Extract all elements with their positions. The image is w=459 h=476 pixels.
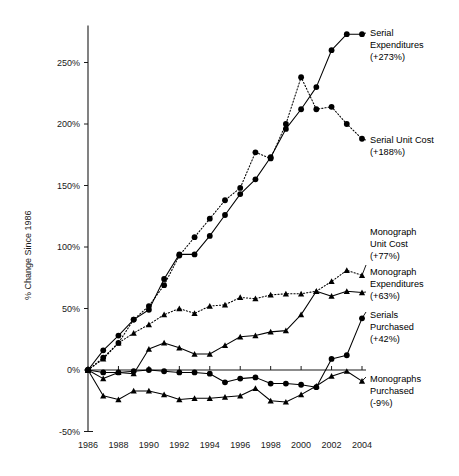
- x-tick-label: 1996: [230, 440, 250, 450]
- annotation-monographs-purchased-line2: Purchased: [370, 386, 414, 396]
- data-point-marker: [131, 317, 137, 323]
- data-point-marker: [344, 352, 350, 358]
- annotation-serial-expenditures-line3: (+273%): [370, 52, 405, 62]
- data-point-marker: [253, 149, 259, 155]
- data-point-marker: [146, 367, 152, 373]
- y-axis-title: % Change Since 1986: [23, 210, 33, 300]
- y-tick-label: 50%: [62, 304, 80, 314]
- data-point-marker: [161, 368, 167, 374]
- annotation-monograph-expenditures-line1: Monograph: [370, 267, 416, 277]
- x-tick-label: 2004: [352, 440, 372, 450]
- x-tick-label: 1994: [200, 440, 220, 450]
- annotation-monograph-unit-cost-line2: Unit Cost: [370, 239, 408, 249]
- chart-container: % Change Since 1986 -50%0%50%100%150%200…: [0, 0, 459, 476]
- annotation-monographs-purchased-line3: (-9%): [370, 398, 392, 408]
- data-point-marker: [283, 381, 289, 387]
- annotation-serial-expenditures-line2: Expenditures: [370, 40, 424, 50]
- x-tick-label: 1988: [108, 440, 128, 450]
- y-tick-label: 100%: [57, 242, 80, 252]
- data-point-marker: [344, 121, 350, 127]
- annotation-monograph-expenditures-line2: Expenditures: [370, 279, 424, 289]
- data-point-marker: [313, 84, 319, 90]
- x-tick-label: 1990: [139, 440, 159, 450]
- data-point-marker: [161, 282, 167, 288]
- annotation-serials-purchased-line3: (+42%): [370, 334, 400, 344]
- data-point-marker: [207, 233, 213, 239]
- data-point-marker: [192, 370, 198, 376]
- data-point-marker: [100, 370, 106, 376]
- data-point-marker: [192, 234, 198, 240]
- data-point-marker: [268, 381, 274, 387]
- data-point-marker: [192, 251, 198, 257]
- annotation-serials-purchased-line1: Serials: [370, 310, 398, 320]
- x-tick-label: 1998: [261, 440, 281, 450]
- data-point-marker: [176, 370, 182, 376]
- annotation-serial-unit-cost-line1: Serial Unit Cost: [370, 135, 434, 145]
- data-point-marker: [237, 191, 243, 197]
- data-point-marker: [146, 303, 152, 309]
- data-point-marker: [344, 31, 350, 37]
- x-tick-label: 2000: [291, 440, 311, 450]
- annotation-leader-line: [362, 292, 366, 293]
- data-point-marker: [253, 176, 259, 182]
- data-point-marker: [329, 356, 335, 362]
- y-tick-label: 250%: [57, 58, 80, 68]
- data-point-marker: [359, 31, 365, 37]
- y-tick-label: -50%: [59, 427, 80, 437]
- data-point-marker: [283, 121, 289, 127]
- data-point-marker: [222, 379, 228, 385]
- annotation-monograph-unit-cost-line1: Monograph: [370, 227, 416, 237]
- data-point-marker: [298, 382, 304, 388]
- x-tick-label: 1986: [78, 440, 98, 450]
- data-point-marker: [237, 376, 243, 382]
- data-point-marker: [131, 368, 137, 374]
- data-point-marker: [298, 74, 304, 80]
- annotation-monograph-expenditures-line3: (+63%): [370, 291, 400, 301]
- data-point-marker: [222, 212, 228, 218]
- x-tick-label: 2002: [322, 440, 342, 450]
- data-point-marker: [359, 315, 365, 321]
- y-tick-label: 0%: [67, 365, 80, 375]
- annotation-monographs-purchased-line1: Monographs: [370, 374, 421, 384]
- data-point-marker: [176, 253, 182, 259]
- data-point-marker: [207, 371, 213, 377]
- annotation-serial-expenditures-line1: Serial: [370, 28, 394, 38]
- annotation-serials-purchased-line2: Purchased: [370, 322, 414, 332]
- data-point-marker: [329, 104, 335, 110]
- data-point-marker: [253, 374, 259, 380]
- y-tick-label: 150%: [57, 181, 80, 191]
- data-point-marker: [116, 333, 122, 339]
- data-point-marker: [359, 136, 365, 142]
- data-point-marker: [116, 370, 122, 376]
- data-point-marker: [207, 216, 213, 222]
- annotation-serial-unit-cost-line2: (+188%): [370, 147, 405, 157]
- y-tick-label: 200%: [57, 119, 80, 129]
- annotation-monograph-unit-cost-line3: (+77%): [370, 251, 400, 261]
- data-point-marker: [313, 106, 319, 112]
- data-point-marker: [222, 197, 228, 203]
- data-point-marker: [161, 276, 167, 282]
- data-point-marker: [100, 347, 106, 353]
- line-chart: % Change Since 1986 -50%0%50%100%150%200…: [0, 0, 459, 476]
- data-point-marker: [298, 106, 304, 112]
- data-point-marker: [237, 185, 243, 191]
- data-point-marker: [329, 47, 335, 53]
- x-tick-label: 1992: [169, 440, 189, 450]
- data-point-marker: [268, 156, 274, 162]
